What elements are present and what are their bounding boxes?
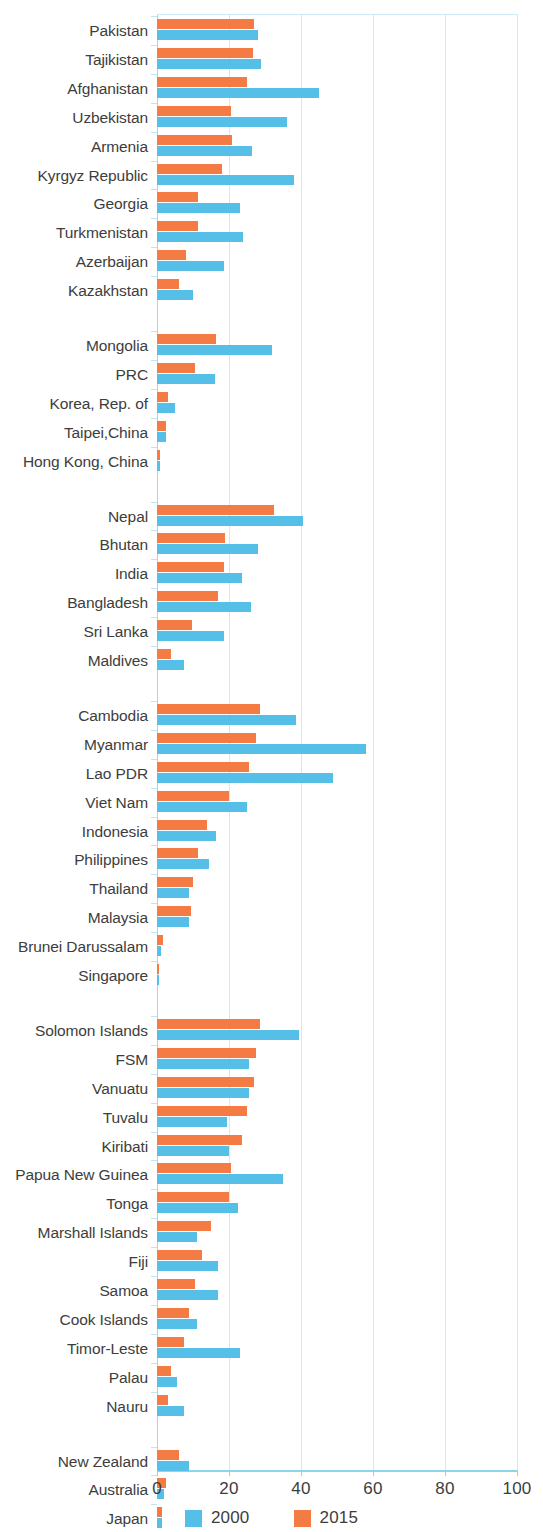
bar-2015 xyxy=(157,334,216,344)
category-label: Malaysia xyxy=(0,903,148,932)
row-tick-mark xyxy=(151,1045,157,1046)
category-label: FSM xyxy=(0,1045,148,1074)
bar-2015 xyxy=(157,77,247,87)
bar-2000 xyxy=(157,660,184,670)
row-tick-mark xyxy=(151,45,157,46)
bar-2000 xyxy=(157,888,189,898)
x-tick-label-80: 80 xyxy=(435,1479,454,1499)
row-tick-mark xyxy=(151,16,157,17)
bar-row: Cambodia xyxy=(0,701,543,730)
row-tick-mark xyxy=(151,1305,157,1306)
legend-swatch-icon xyxy=(185,1510,202,1527)
row-tick-mark xyxy=(151,447,157,448)
bar-2000 xyxy=(157,203,240,213)
category-label: Indonesia xyxy=(0,817,148,846)
row-tick-mark xyxy=(151,389,157,390)
row-tick-mark xyxy=(151,1103,157,1104)
category-label: Kazakhstan xyxy=(0,276,148,305)
row-tick-mark xyxy=(151,588,157,589)
category-label: Palau xyxy=(0,1363,148,1392)
row-tick-mark xyxy=(151,1363,157,1364)
bar-2000 xyxy=(157,773,333,783)
row-tick-mark xyxy=(151,701,157,702)
row-tick-mark xyxy=(151,161,157,162)
category-label: Viet Nam xyxy=(0,788,148,817)
bar-row: Hong Kong, China xyxy=(0,447,543,476)
bar-2000 xyxy=(157,232,243,242)
bar-2015 xyxy=(157,848,198,858)
bar-2000 xyxy=(157,831,216,841)
bar-2000 xyxy=(157,1406,184,1416)
row-tick-mark xyxy=(151,932,157,933)
bar-2000 xyxy=(157,1088,249,1098)
bar-row: Maldives xyxy=(0,646,543,675)
bar-2000 xyxy=(157,1461,189,1471)
bar-row: Cook Islands xyxy=(0,1305,543,1334)
row-tick-mark xyxy=(151,247,157,248)
category-label: Azerbaijan xyxy=(0,247,148,276)
bar-row: Taipei,China xyxy=(0,418,543,447)
category-label: PRC xyxy=(0,360,148,389)
row-tick-mark xyxy=(151,874,157,875)
bar-2015 xyxy=(157,1395,168,1405)
row-tick-mark xyxy=(151,1247,157,1248)
category-label: Fiji xyxy=(0,1247,148,1276)
bar-2015 xyxy=(157,1048,256,1058)
legend-item-2015[interactable]: 2015 xyxy=(294,1508,359,1528)
row-tick-mark xyxy=(151,1189,157,1190)
bar-2000 xyxy=(157,1117,227,1127)
bar-2000 xyxy=(157,1174,283,1184)
category-label: Samoa xyxy=(0,1276,148,1305)
bar-2000 xyxy=(157,1030,299,1040)
bar-2015 xyxy=(157,48,253,58)
bar-2015 xyxy=(157,19,254,29)
row-tick-mark xyxy=(151,218,157,219)
row-tick-mark xyxy=(151,1392,157,1393)
category-label: Pakistan xyxy=(0,16,148,45)
bar-2015 xyxy=(157,704,260,714)
bar-row: Kyrgyz Republic xyxy=(0,161,543,190)
bar-2000 xyxy=(157,516,303,526)
bar-2015 xyxy=(157,392,168,402)
bar-2015 xyxy=(157,1106,247,1116)
category-label: Lao PDR xyxy=(0,759,148,788)
bar-2015 xyxy=(157,733,256,743)
category-label: Australia xyxy=(0,1475,148,1504)
bar-2015 xyxy=(157,964,159,974)
row-tick-mark xyxy=(151,132,157,133)
bar-row: Sri Lanka xyxy=(0,617,543,646)
category-label: Solomon Islands xyxy=(0,1016,148,1045)
bar-2015 xyxy=(157,1221,211,1231)
bar-row: Singapore xyxy=(0,961,543,990)
category-label: Nauru xyxy=(0,1392,148,1421)
bar-2015 xyxy=(157,1019,260,1029)
category-label: Cook Islands xyxy=(0,1305,148,1334)
category-label: Sri Lanka xyxy=(0,617,148,646)
bar-2015 xyxy=(157,591,218,601)
bar-2015 xyxy=(157,1135,242,1145)
row-tick-mark xyxy=(151,1016,157,1017)
bar-row: Tuvalu xyxy=(0,1103,543,1132)
row-tick-mark xyxy=(151,331,157,332)
bar-2000 xyxy=(157,975,159,985)
category-label: India xyxy=(0,559,148,588)
category-label: Vanuatu xyxy=(0,1074,148,1103)
bar-2015 xyxy=(157,1366,171,1376)
bar-2015 xyxy=(157,791,229,801)
bar-row: Turkmenistan xyxy=(0,218,543,247)
bar-row: Tajikistan xyxy=(0,45,543,74)
bar-2000 xyxy=(157,1348,240,1358)
bar-row: Viet Nam xyxy=(0,788,543,817)
x-tick-label-0: 0 xyxy=(152,1479,162,1499)
bar-2000 xyxy=(157,59,261,69)
bar-row: Myanmar xyxy=(0,730,543,759)
bar-2015 xyxy=(157,1279,195,1289)
legend-item-2000[interactable]: 2000 xyxy=(185,1508,250,1528)
category-label: Singapore xyxy=(0,961,148,990)
row-tick-mark xyxy=(151,1132,157,1133)
bar-row: Nepal xyxy=(0,502,543,531)
bar-2015 xyxy=(157,135,232,145)
x-tick-mark-0 xyxy=(157,1470,158,1476)
row-tick-mark xyxy=(151,1276,157,1277)
bar-chart: PakistanTajikistanAfghanistanUzbekistanA… xyxy=(0,0,543,1532)
